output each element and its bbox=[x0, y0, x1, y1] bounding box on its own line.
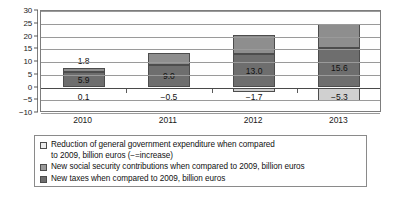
chart-root: 302520151050−5−10 1.85.90.14.69.0−0.57.4… bbox=[0, 0, 401, 200]
y-axis-tick-label: 25 bbox=[24, 18, 33, 27]
x-axis-label-2013: 2013 bbox=[329, 115, 348, 125]
gridline bbox=[41, 49, 380, 50]
y-axis-tick-label: 10 bbox=[24, 57, 33, 66]
y-axis-tick-label: 20 bbox=[24, 31, 33, 40]
plot-area: 1.85.90.14.69.0−0.57.413.0−1.79.215.6−5.… bbox=[40, 10, 381, 112]
legend-label-line2: to 2009, billion euros (−=increase) bbox=[51, 151, 275, 162]
gridline bbox=[41, 75, 380, 76]
legend-swatch-social bbox=[40, 164, 47, 171]
x-axis-labels: 2010201120122013 bbox=[40, 114, 381, 128]
legend-label: New social security contributions when c… bbox=[51, 162, 305, 173]
gridline bbox=[41, 11, 380, 12]
gridline bbox=[41, 62, 380, 63]
y-axis-tick-label: 0 bbox=[28, 82, 32, 91]
x-axis-label-2010: 2010 bbox=[73, 115, 92, 125]
y-axis-tick-mark bbox=[34, 22, 38, 23]
bar-value-label-taxes: 5.9 bbox=[64, 76, 104, 85]
x-axis-tick-mark bbox=[297, 89, 298, 93]
y-axis-tick-mark bbox=[34, 86, 38, 87]
gridline bbox=[41, 24, 380, 25]
legend-swatch-taxes bbox=[40, 176, 47, 183]
x-axis-label-2012: 2012 bbox=[244, 115, 263, 125]
bars-layer: 1.85.90.14.69.0−0.57.413.0−1.79.215.6−5.… bbox=[41, 11, 380, 111]
y-axis-tick-mark bbox=[34, 35, 38, 36]
y-axis-tick-mark bbox=[34, 61, 38, 62]
bar-segment-taxes[interactable]: 9.0 bbox=[148, 65, 190, 88]
legend-label: Reduction of general government expendit… bbox=[51, 140, 275, 161]
legend-swatch-expenditure bbox=[40, 142, 47, 149]
bar-segment-taxes[interactable]: 15.6 bbox=[318, 48, 360, 88]
y-axis-tick-label: 15 bbox=[24, 44, 33, 53]
zero-line bbox=[41, 88, 380, 89]
gridline bbox=[41, 37, 380, 38]
y-axis-tick-label: −10 bbox=[19, 108, 32, 117]
y-axis-tick-label: 5 bbox=[28, 69, 32, 78]
x-axis-tick-mark bbox=[126, 89, 127, 93]
bar-segment-social[interactable] bbox=[233, 35, 275, 54]
y-axis-tick-label: −5 bbox=[23, 95, 32, 104]
x-axis-tick-mark bbox=[212, 89, 213, 93]
legend-item[interactable]: Reduction of general government expendit… bbox=[40, 140, 361, 161]
legend-item[interactable]: New social security contributions when c… bbox=[40, 162, 361, 173]
bar-value-label-taxes: 15.6 bbox=[319, 64, 359, 73]
legend-label: New taxes when compared to 2009, billion… bbox=[51, 174, 225, 185]
bar-segment-social[interactable] bbox=[63, 68, 105, 73]
y-axis-tick-label: 30 bbox=[24, 6, 33, 15]
legend-item[interactable]: New taxes when compared to 2009, billion… bbox=[40, 174, 361, 185]
gridline bbox=[41, 100, 380, 101]
y-axis-tick-mark bbox=[34, 112, 38, 113]
bar-segment-taxes[interactable]: 13.0 bbox=[233, 54, 275, 87]
bar-value-label-taxes: 9.0 bbox=[149, 72, 189, 81]
y-axis-tick-mark bbox=[34, 73, 38, 74]
y-axis: 302520151050−5−10 bbox=[0, 10, 38, 112]
chart-legend: Reduction of general government expendit… bbox=[34, 135, 367, 187]
y-axis-tick-mark bbox=[34, 48, 38, 49]
y-axis-tick-mark bbox=[34, 10, 38, 11]
x-axis-label-2011: 2011 bbox=[159, 115, 177, 125]
y-axis-tick-mark bbox=[34, 99, 38, 100]
